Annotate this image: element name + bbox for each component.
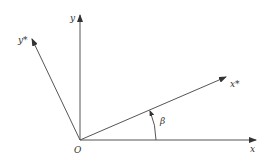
y-star-label: y* [18,36,28,45]
angle-beta-label: β [160,117,165,126]
origin-label: O [74,146,81,155]
angle-beta-arc [150,111,156,140]
y-star-axis [32,39,80,140]
x-star-label: x* [230,80,240,89]
y-label: y [70,14,75,23]
rotated-axes-diagram: y* y x* x O β [0,0,272,159]
x-label: x [250,145,255,154]
x-star-axis [80,77,226,140]
